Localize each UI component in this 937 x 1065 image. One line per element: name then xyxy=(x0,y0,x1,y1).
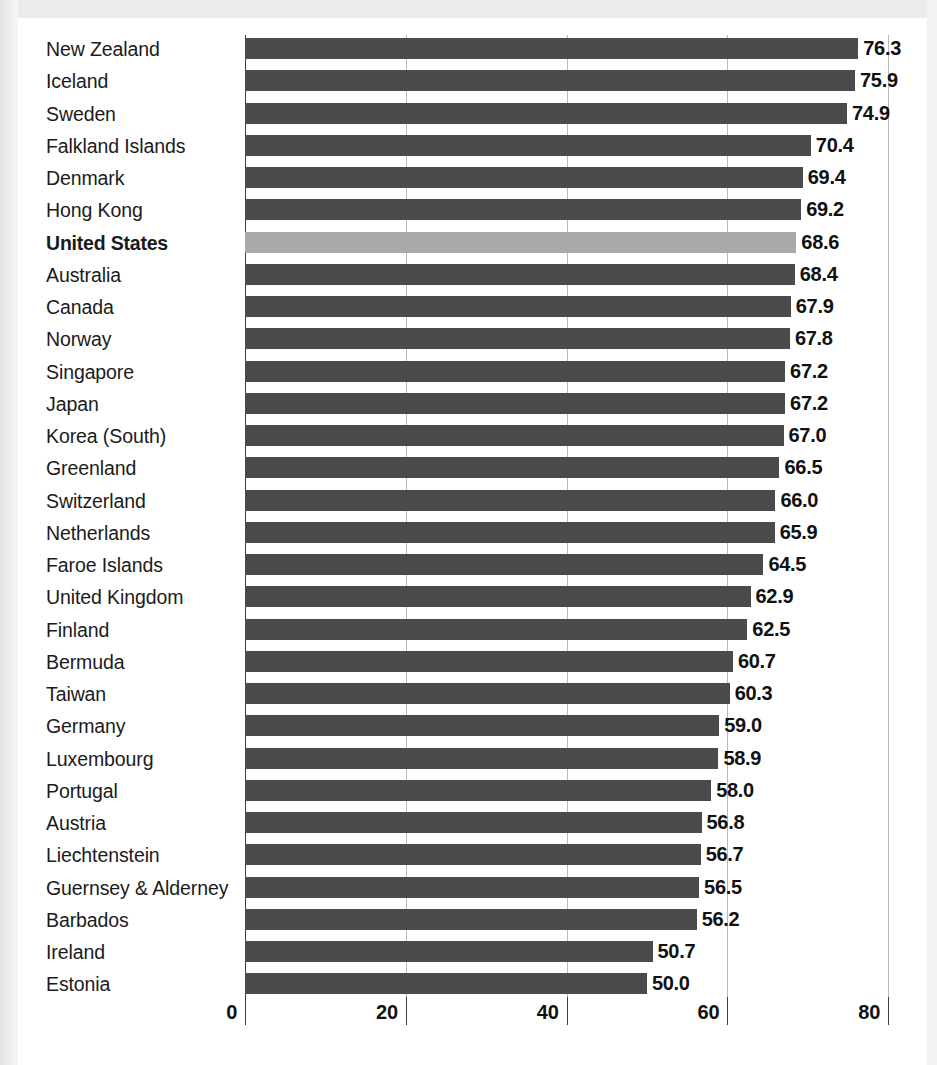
bar xyxy=(245,232,796,253)
chart-row: Finland62.5 xyxy=(0,614,937,646)
category-label: Finland xyxy=(46,614,109,646)
bar xyxy=(245,651,733,672)
bar xyxy=(245,167,803,188)
bar xyxy=(245,715,719,736)
bar xyxy=(245,38,858,59)
x-tick-label-80: 80 xyxy=(824,1001,880,1024)
category-label: Luxembourg xyxy=(46,743,153,775)
bar-value-label: 59.0 xyxy=(724,710,762,742)
bar xyxy=(245,490,775,511)
category-label: Netherlands xyxy=(46,517,150,549)
bar-value-label: 56.5 xyxy=(704,872,742,904)
bar xyxy=(245,393,785,414)
bar-value-label: 67.2 xyxy=(790,388,828,420)
horizontal-bar-chart: New Zealand76.3Iceland75.9Sweden74.9Falk… xyxy=(0,0,937,1065)
chart-row: Korea (South)67.0 xyxy=(0,420,937,452)
bar-value-label: 56.2 xyxy=(702,904,740,936)
category-label: Switzerland xyxy=(46,485,146,517)
category-label: Bermuda xyxy=(46,646,124,678)
bar xyxy=(245,264,795,285)
x-tick-mark-60 xyxy=(727,997,728,1025)
bar xyxy=(245,328,790,349)
category-label: Faroe Islands xyxy=(46,549,163,581)
bar xyxy=(245,877,699,898)
category-label: Falkland Islands xyxy=(46,130,185,162)
chart-row: Barbados56.2 xyxy=(0,904,937,936)
bar-value-label: 74.9 xyxy=(852,98,890,130)
x-tick-mark-20 xyxy=(406,997,407,1025)
chart-row: Netherlands65.9 xyxy=(0,517,937,549)
x-tick-label-0: 0 xyxy=(181,1001,237,1024)
chart-row: New Zealand76.3 xyxy=(0,33,937,65)
category-label: Sweden xyxy=(46,98,116,130)
bar-value-label: 60.3 xyxy=(735,678,773,710)
category-label: New Zealand xyxy=(46,33,160,65)
chart-row: Singapore67.2 xyxy=(0,356,937,388)
bar xyxy=(245,296,791,317)
category-label: Estonia xyxy=(46,968,110,1000)
category-label: Iceland xyxy=(46,65,108,97)
bar xyxy=(245,683,730,704)
bar xyxy=(245,748,718,769)
category-label: Denmark xyxy=(46,162,124,194)
chart-row: Ireland50.7 xyxy=(0,936,937,968)
bar xyxy=(245,361,785,382)
bar-value-label: 56.8 xyxy=(707,807,745,839)
bar-value-label: 64.5 xyxy=(768,549,806,581)
x-tick-label-40: 40 xyxy=(503,1001,559,1024)
category-label: Greenland xyxy=(46,452,136,484)
chart-row: Denmark69.4 xyxy=(0,162,937,194)
x-tick-mark-0 xyxy=(245,997,246,1025)
bar-value-label: 65.9 xyxy=(780,517,818,549)
bar xyxy=(245,844,701,865)
bar-value-label: 75.9 xyxy=(860,65,898,97)
bar-value-label: 69.4 xyxy=(808,162,846,194)
category-label: United Kingdom xyxy=(46,581,183,613)
bar xyxy=(245,522,775,543)
bar xyxy=(245,425,784,446)
bar xyxy=(245,554,763,575)
chart-row: Sweden74.9 xyxy=(0,98,937,130)
chart-row: Hong Kong69.2 xyxy=(0,194,937,226)
category-label: Liechtenstein xyxy=(46,839,160,871)
bar xyxy=(245,780,711,801)
bar-value-label: 66.5 xyxy=(784,452,822,484)
bar-value-label: 68.4 xyxy=(800,259,838,291)
bar xyxy=(245,619,747,640)
chart-row: United States68.6 xyxy=(0,227,937,259)
chart-row: Japan67.2 xyxy=(0,388,937,420)
bar-value-label: 60.7 xyxy=(738,646,776,678)
chart-row: Switzerland66.0 xyxy=(0,485,937,517)
chart-row: Australia68.4 xyxy=(0,259,937,291)
chart-row: Portugal58.0 xyxy=(0,775,937,807)
chart-row: Falkland Islands70.4 xyxy=(0,130,937,162)
chart-row: United Kingdom62.9 xyxy=(0,581,937,613)
bar-value-label: 69.2 xyxy=(806,194,844,226)
bar-value-label: 68.6 xyxy=(801,227,839,259)
category-label: Barbados xyxy=(46,904,129,936)
x-tick-mark-80 xyxy=(888,997,889,1025)
category-label: Germany xyxy=(46,710,126,742)
bar-value-label: 66.0 xyxy=(780,485,818,517)
chart-row: Greenland66.5 xyxy=(0,452,937,484)
category-label: Canada xyxy=(46,291,114,323)
chart-row: Taiwan60.3 xyxy=(0,678,937,710)
bar xyxy=(245,457,779,478)
chart-row: Luxembourg58.9 xyxy=(0,743,937,775)
chart-row: Germany59.0 xyxy=(0,710,937,742)
bar-value-label: 58.0 xyxy=(716,775,754,807)
bar-value-label: 56.7 xyxy=(706,839,744,871)
bar xyxy=(245,135,811,156)
bar-value-label: 50.0 xyxy=(652,968,690,1000)
chart-page: New Zealand76.3Iceland75.9Sweden74.9Falk… xyxy=(0,0,937,1065)
bar-value-label: 70.4 xyxy=(816,130,854,162)
bar xyxy=(245,586,751,607)
category-label: Ireland xyxy=(46,936,105,968)
bar xyxy=(245,70,855,91)
bar-value-label: 67.8 xyxy=(795,323,833,355)
chart-row: Faroe Islands64.5 xyxy=(0,549,937,581)
category-label: Austria xyxy=(46,807,106,839)
chart-row: Liechtenstein56.7 xyxy=(0,839,937,871)
category-label: Japan xyxy=(46,388,99,420)
bar-value-label: 58.9 xyxy=(723,743,761,775)
